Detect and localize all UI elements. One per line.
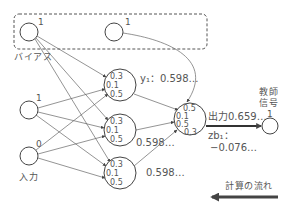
teacher-label-line2: 信号 xyxy=(259,99,278,108)
teacher-label-line1: 教師 xyxy=(259,88,278,97)
input-group-label: 入力 xyxy=(19,173,38,182)
bias-node-1-value: 1 xyxy=(38,18,44,27)
output-value: 出力0.659… xyxy=(208,112,267,122)
zb-value: −0.076… xyxy=(210,143,257,153)
bias-node-2-value: 1 xyxy=(125,18,131,27)
hidden-3-weight-3: 0.5 xyxy=(110,179,123,187)
output-weight-4: 0.3 xyxy=(184,129,197,137)
hidden-1-weight-2: 0.1 xyxy=(106,82,119,90)
flow-label: 計算の流れ xyxy=(225,182,273,191)
hidden-3-weight-1: 0.3 xyxy=(110,161,123,169)
bias-group-label: バイアス xyxy=(14,53,52,62)
hidden-2-weight-2: 0.1 xyxy=(106,127,119,135)
teacher-value: 1 xyxy=(267,110,273,119)
input-node-1-value: 1 xyxy=(36,94,42,103)
input-node-2-value: 0 xyxy=(36,140,42,149)
zb-label: zb₁： xyxy=(208,131,234,141)
hidden-1-output: y₁：0.598… xyxy=(140,74,199,84)
hidden-3-output: 0.598… xyxy=(146,168,185,178)
bias-node-1 xyxy=(20,23,38,41)
neural-network-diagram xyxy=(0,0,291,211)
hidden-2-weight-1: 0.3 xyxy=(110,118,123,126)
hidden-1-weight-1: 0.3 xyxy=(110,73,123,81)
hidden-2-output: 0.598… xyxy=(136,138,175,148)
bias-node-2 xyxy=(105,23,123,41)
input-node-2 xyxy=(20,147,38,165)
hidden-3-weight-2: 0.1 xyxy=(106,170,119,178)
hidden-1-weight-3: 0.5 xyxy=(110,91,123,99)
input-node-1 xyxy=(20,101,38,119)
hidden-2-weight-3: 0.5 xyxy=(110,136,123,144)
